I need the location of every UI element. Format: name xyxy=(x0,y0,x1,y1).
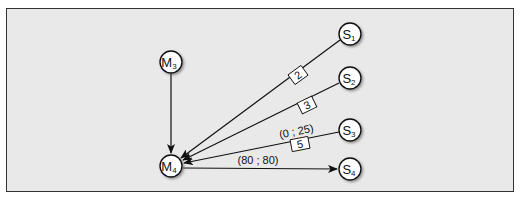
network-diagram: 2 3 5 (0 ; 25) (80 ; 80) M3 M4 S1 S2 S3 … xyxy=(0,0,525,198)
edge-s2-weight-box: 3 xyxy=(297,96,317,114)
node-s4: S4 xyxy=(339,158,361,180)
edge-s1-weight-box: 2 xyxy=(288,65,308,84)
node-m4: M4 xyxy=(160,155,182,177)
node-s3: S3 xyxy=(339,119,361,141)
edge-s4-text-label: (80 ; 80) xyxy=(238,154,279,166)
node-s1: S1 xyxy=(339,23,361,45)
edge-s3-weight-box: 5 xyxy=(290,136,310,151)
edge-s1-m4 xyxy=(181,40,340,158)
edge-s2-m4 xyxy=(183,83,339,160)
node-m3: M3 xyxy=(160,51,182,73)
edge-m4-s4 xyxy=(183,168,337,169)
node-s2: S2 xyxy=(339,67,361,89)
